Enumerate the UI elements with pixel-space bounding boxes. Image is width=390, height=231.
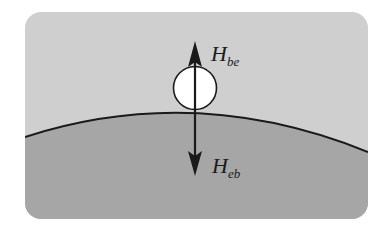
diagram-canvas [0, 0, 390, 231]
label-h-be-main: H [211, 41, 227, 66]
label-h-eb-subscript: eb [228, 166, 240, 181]
label-h-be-subscript: be [227, 54, 239, 69]
label-h-eb-main: H [212, 153, 228, 178]
label-h-be: Hbe [211, 43, 239, 68]
force-diagram: Hbe Heb [0, 0, 390, 231]
label-h-eb: Heb [212, 155, 240, 180]
